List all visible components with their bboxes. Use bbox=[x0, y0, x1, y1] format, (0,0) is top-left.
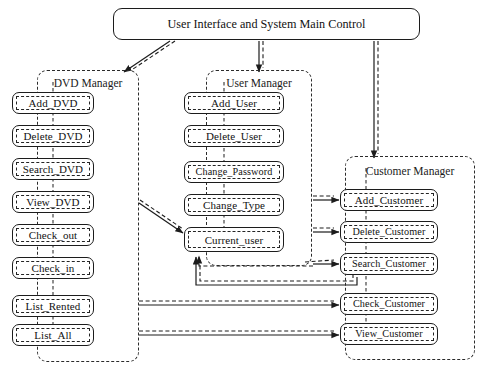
node-delete-dvd[interactable]: Delete_DVD bbox=[12, 125, 94, 147]
edge-root-to-user-manager bbox=[259, 41, 263, 72]
edge-dvd-manager-to-check-customer bbox=[139, 301, 339, 305]
system-main-control-label: User Interface and System Main Control bbox=[168, 17, 366, 32]
node-check-in[interactable]: Check_in bbox=[12, 257, 94, 279]
node-search-customer[interactable]: Search_Customer bbox=[340, 253, 438, 275]
node-label-add-dvd: Add_DVD bbox=[29, 97, 78, 109]
node-label-search-dvd: Search_DVD bbox=[23, 163, 83, 175]
node-change-type[interactable]: Change_Type bbox=[184, 194, 284, 216]
edge-dvd-manager-to-current-user bbox=[139, 200, 183, 233]
package-title-user-manager: User Manager bbox=[207, 77, 311, 90]
system-main-control-node[interactable]: User Interface and System Main Control bbox=[113, 8, 420, 40]
edge-root-to-dvd-manager bbox=[124, 41, 175, 72]
node-label-change-password: Change_Password bbox=[196, 166, 273, 178]
node-list-rented[interactable]: List_Rented bbox=[12, 295, 94, 317]
node-label-add-customer: Add_Customer bbox=[355, 194, 423, 206]
node-label-check-in: Check_in bbox=[32, 262, 75, 274]
node-delete-customer[interactable]: Delete_Customer bbox=[340, 221, 438, 243]
edge-dvd-manager-to-view-customer bbox=[139, 331, 339, 335]
node-change-password[interactable]: Change_Password bbox=[184, 161, 284, 183]
node-delete-user[interactable]: Delete_User bbox=[184, 125, 284, 147]
node-label-delete-user: Delete_User bbox=[206, 130, 262, 142]
node-label-delete-dvd: Delete_DVD bbox=[23, 130, 82, 142]
node-check-out[interactable]: Check_out bbox=[12, 224, 94, 246]
diagram-canvas: User Interface and System Main Control D… bbox=[0, 0, 481, 379]
node-search-dvd[interactable]: Search_DVD bbox=[12, 158, 94, 180]
node-label-change-type: Change_Type bbox=[203, 199, 265, 211]
node-label-current-user: Current_user bbox=[205, 234, 264, 246]
node-add-dvd[interactable]: Add_DVD bbox=[12, 92, 94, 114]
node-view-customer[interactable]: View_Customer bbox=[340, 323, 438, 345]
edge-root-to-customer-manager bbox=[374, 41, 378, 158]
node-view-dvd[interactable]: View_DVD bbox=[12, 191, 94, 213]
node-current-user[interactable]: Current_user bbox=[184, 227, 284, 252]
node-label-add-user: Add_User bbox=[211, 97, 257, 109]
package-title-customer-manager: Customer Manager bbox=[346, 165, 474, 178]
node-label-list-rented: List_Rented bbox=[26, 300, 81, 312]
node-label-view-dvd: View_DVD bbox=[26, 196, 79, 208]
node-check-customer[interactable]: Check_Customer bbox=[340, 293, 438, 315]
edge-user-manager-to-add-customer bbox=[313, 196, 339, 200]
node-add-user[interactable]: Add_User bbox=[184, 92, 284, 114]
node-label-check-out: Check_out bbox=[29, 229, 78, 241]
edge-user-manager-to-delete-customer bbox=[313, 228, 339, 232]
node-label-view-customer: View_Customer bbox=[355, 328, 422, 340]
node-label-check-customer: Check_Customer bbox=[353, 298, 425, 310]
node-label-search-customer: Search_Customer bbox=[352, 258, 426, 270]
node-list-all[interactable]: List_All bbox=[12, 324, 94, 346]
package-title-dvd-manager: DVD Manager bbox=[38, 77, 138, 90]
node-add-customer[interactable]: Add_Customer bbox=[340, 189, 438, 211]
node-label-list-all: List_All bbox=[34, 329, 71, 341]
node-label-delete-customer: Delete_Customer bbox=[353, 226, 426, 238]
